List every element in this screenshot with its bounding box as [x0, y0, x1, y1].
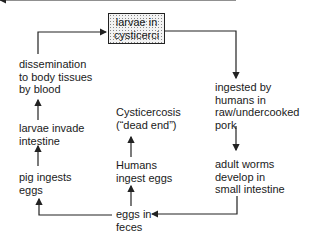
node-pig-ingests-eggs: pig ingests eggs: [19, 171, 72, 196]
arrow-adult-to-eggs: [152, 196, 237, 214]
node-dissemination: dissemination to body tissues by blood: [19, 58, 92, 96]
arrow-dissemination-to-larvae: [38, 32, 106, 54]
node-humans-ingest-eggs: Humans ingest eggs: [116, 159, 172, 184]
arrow-larvae-to-ingested: [165, 31, 236, 78]
node-adult-worms: adult worms develop in small intestine: [215, 158, 285, 196]
node-larvae-invade: larvae invade intestine: [19, 122, 84, 147]
node-text: larvae in: [116, 16, 158, 28]
node-cysticercosis: Cysticercosis (“dead end”): [116, 106, 181, 131]
node-ingested-by-humans: ingested by humans in raw/undercooked po…: [215, 81, 299, 131]
node-larvae-in-cysticerci: larvae incysticerci: [108, 13, 165, 44]
arrow-eggs-to-pig: [39, 199, 112, 215]
node-text: cysticerci: [114, 29, 159, 41]
node-eggs-in-feces: eggs in feces: [116, 208, 151, 233]
